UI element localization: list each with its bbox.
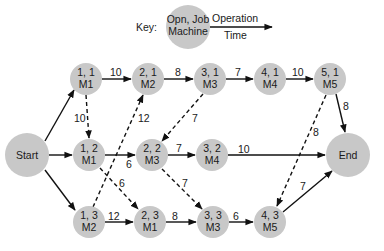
job-shop-network-diagram: Key: Opn, Job Machine Operation Time [0,0,384,251]
node-2-3-machine: M1 [143,221,158,233]
key-edge-top: Operation [212,12,258,24]
node-1-1-op: 1, 1 [77,66,95,78]
node-1-3-machine: M2 [82,221,97,233]
node-2-1: 2, 1 M2 [132,63,164,95]
edge-label-41-51: 10 [292,66,304,78]
node-5-1: 5, 1 M5 [314,63,346,95]
edge-label-22-33: 7 [182,177,188,189]
node-1-1-machine: M1 [79,78,94,90]
node-4-3: 4, 3 M5 [254,206,286,238]
node-2-1-op: 2, 1 [139,66,157,78]
node-2-1-machine: M2 [141,78,156,90]
node-3-3-op: 3, 3 [204,209,222,221]
node-5-1-op: 5, 1 [321,66,339,78]
node-3-2-op: 3, 2 [203,142,221,154]
node-1-2: 1, 2 M1 [73,139,105,171]
node-1-3-op: 1, 3 [80,209,98,221]
edge-label-13-21: 12 [138,112,150,124]
node-2-2-op: 2, 2 [143,142,161,154]
edge-label-43-end: 7 [300,180,306,192]
node-5-1-machine: M5 [323,78,338,90]
node-1-2-machine: M1 [82,154,97,166]
edge-11-12 [86,95,89,138]
node-1-3: 1, 3 M2 [73,206,105,238]
node-3-3: 3, 3 M3 [197,206,229,238]
edge-label-21-31: 8 [175,66,181,78]
node-end-label: End [339,149,358,161]
edge-label-32-end: 10 [238,143,250,155]
edge-label-22-32: 7 [176,142,182,154]
edge-label-31-22: 7 [192,112,198,124]
node-3-2-machine: M4 [205,154,220,166]
edge-start-11 [45,90,74,141]
node-3-2: 3, 2 M4 [196,139,228,171]
node-4-3-machine: M5 [263,221,278,233]
node-4-1-op: 4, 1 [261,66,279,78]
node-4-1-machine: M4 [263,78,278,90]
edge-label-12-22: 6 [126,158,132,170]
key-edge-bottom: Time [224,29,247,41]
node-1-2-op: 1, 2 [80,142,98,154]
node-2-2: 2, 2 M3 [136,139,168,171]
node-3-1-op: 3, 1 [201,66,219,78]
node-2-3: 2, 3 M1 [134,206,166,238]
edge-label-51-end: 8 [343,100,349,112]
edge-label-12-23: 6 [119,177,125,189]
edge-label-13-23: 12 [108,210,120,222]
node-start: Start [5,133,49,177]
edge-label-11-21: 10 [110,66,122,78]
node-2-2-machine: M3 [145,154,160,166]
node-2-3-op: 2, 3 [141,209,159,221]
key-label: Key: [136,21,157,33]
node-3-3-machine: M3 [206,221,221,233]
node-4-3-op: 4, 3 [261,209,279,221]
node-1-1: 1, 1 M1 [70,63,102,95]
node-start-label: Start [16,149,38,161]
edge-label-33-43: 6 [233,210,239,222]
edge-22-33 [162,169,202,209]
edge-start-13 [45,170,75,210]
edge-label-31-41: 7 [235,66,241,78]
edge-label-51-43: 8 [313,126,319,138]
node-3-1: 3, 1 M3 [194,63,226,95]
legend-key: Key: Opn, Job Machine Operation Time [136,5,272,49]
node-4-1: 4, 1 M4 [254,63,286,95]
node-3-1-machine: M3 [203,78,218,90]
edge-label-23-33: 8 [172,210,178,222]
node-end: End [326,133,370,177]
key-node-line2: Machine [168,25,208,37]
edge-43-end [283,171,332,212]
edge-label-11-12: 10 [74,112,86,124]
key-node-line1: Opn, Job [167,13,210,25]
